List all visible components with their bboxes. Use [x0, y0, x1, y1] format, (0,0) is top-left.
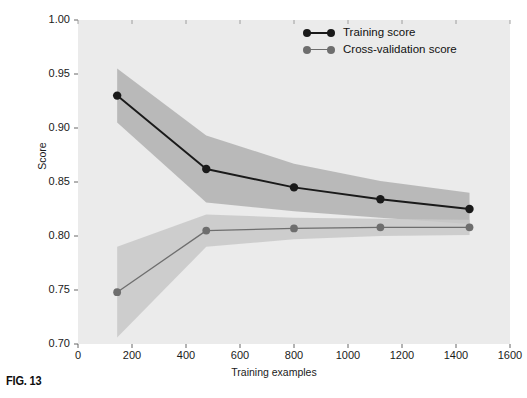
legend-item-label: Training score	[343, 26, 415, 39]
y-tick-label: 1.00	[30, 14, 70, 25]
x-tick-label-text: 200	[107, 349, 157, 361]
legend-dot-icon	[327, 29, 335, 37]
x-tick-label-text: 1400	[431, 349, 481, 361]
x-tick-label-text: 400	[161, 349, 211, 361]
x-tick-label: 400	[161, 349, 211, 361]
x-tick-label: 600	[215, 349, 265, 361]
legend-marker-icon	[302, 43, 336, 57]
x-tick-label-text: 1600	[485, 349, 527, 361]
x-tick-label-text: 600	[215, 349, 265, 361]
x-tick-label: 1600	[485, 349, 527, 361]
x-tick-label: 1200	[377, 349, 427, 361]
legend-dot-icon	[327, 46, 335, 54]
x-axis-title-text: Training examples	[231, 366, 316, 378]
y-tick-label-text: 1.00	[32, 14, 70, 25]
legend-marker-icon	[302, 26, 336, 40]
y-axis-title: Score	[36, 126, 48, 186]
y-tick-label: 0.70	[30, 338, 70, 349]
data-point	[113, 91, 121, 99]
y-tick-label: 0.75	[30, 284, 70, 295]
y-axis-title-text: Score	[36, 142, 48, 169]
data-point	[466, 223, 474, 231]
y-tick-label-text: 0.80	[32, 230, 70, 241]
data-point	[377, 223, 385, 231]
x-tick-label-text: 1000	[323, 349, 373, 361]
legend-item-label: Cross-validation score	[343, 43, 457, 56]
x-tick-label-text: 0	[53, 349, 103, 361]
legend-item-0: Training score	[302, 24, 457, 41]
x-tick-label: 1000	[323, 349, 373, 361]
x-axis-title: Training examples	[0, 366, 516, 378]
y-tick-label-text: 0.75	[32, 284, 70, 295]
y-tick-label: 0.95	[30, 68, 70, 79]
learning-curve-chart: 0.700.750.800.850.900.951.00 02004006008…	[0, 0, 516, 360]
data-point	[465, 205, 473, 213]
x-tick-label: 1400	[431, 349, 481, 361]
x-tick-label-text: 1200	[377, 349, 427, 361]
data-point	[290, 183, 298, 191]
chart-legend: Training scoreCross-validation score	[296, 20, 463, 63]
data-point	[113, 288, 121, 296]
x-tick-label: 0	[53, 349, 103, 361]
x-tick-label-text: 800	[269, 349, 319, 361]
data-point	[290, 225, 298, 233]
data-point	[202, 227, 210, 235]
data-point	[202, 165, 210, 173]
legend-dot-icon	[303, 46, 311, 54]
legend-dot-icon	[303, 29, 311, 37]
y-tick-label-text: 0.95	[32, 68, 70, 79]
data-point	[376, 195, 384, 203]
x-tick-label: 200	[107, 349, 157, 361]
figure-caption: FIG. 13	[6, 374, 41, 388]
y-tick-label-text: 0.70	[32, 338, 70, 349]
confidence-band-1	[117, 214, 469, 337]
confidence-band-0	[117, 69, 469, 225]
x-tick-label: 800	[269, 349, 319, 361]
legend-item-1: Cross-validation score	[302, 41, 457, 58]
y-tick-label: 0.80	[30, 230, 70, 241]
